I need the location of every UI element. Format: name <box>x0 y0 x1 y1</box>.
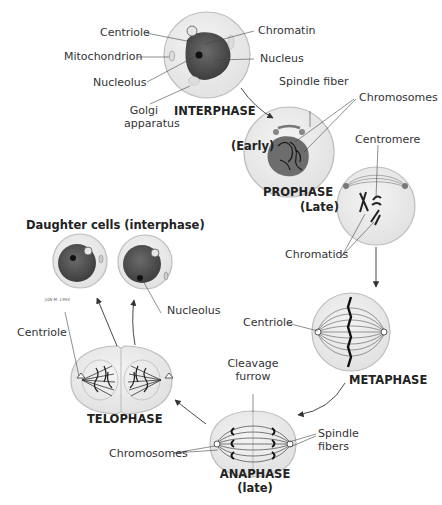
stage-telophase: TELOPHASE <box>87 412 163 426</box>
telophase-cell <box>71 346 173 414</box>
label-nucleus: Nucleus <box>260 52 304 65</box>
label-golgi-apparatus: Golgi apparatus <box>124 104 164 130</box>
stage-anaphase: ANAPHASE (late) <box>212 467 298 495</box>
label-chromatin: Chromatin <box>258 24 315 37</box>
artist-signature: JON M. 1994 <box>45 297 70 302</box>
stage-prophase-early: (Early) <box>231 139 274 153</box>
arrow-metaphase-to-anaphase <box>298 383 345 415</box>
label-nucleolus-interphase: Nucleolus <box>93 76 147 89</box>
title-daughter-cells: Daughter cells (interphase) <box>26 218 205 232</box>
nucleolus-dot <box>196 52 203 59</box>
label-nucleolus-daughter: Nucleolus <box>167 304 221 317</box>
arrow-anaphase-to-telophase <box>175 400 206 424</box>
interphase-cell <box>164 12 250 98</box>
label-centromere: Centromere <box>355 133 420 146</box>
label-centriole-interphase: Centriole <box>100 26 150 39</box>
label-cleavage-furrow: Cleavage furrow <box>226 357 280 383</box>
stage-interphase: INTERPHASE <box>174 104 256 118</box>
label-centriole-telophase: Centriole <box>17 326 67 339</box>
daughter-cell-left <box>53 234 107 288</box>
arrow-telophase-to-daughter-right <box>133 300 135 345</box>
mitosis-diagram <box>0 0 442 505</box>
label-centriole-metaphase: Centriole <box>243 316 293 329</box>
arrow-telophase-to-daughter-left <box>97 298 117 346</box>
centriole-shape <box>187 26 197 36</box>
stage-prophase-late: (Late) <box>300 200 339 214</box>
label-spindle-fiber: Spindle fiber <box>279 75 349 88</box>
label-chromatids: Chromatids <box>285 248 348 261</box>
metaphase-cell <box>312 293 390 371</box>
mitochondrion-shape <box>170 51 175 61</box>
stage-metaphase: METAPHASE <box>349 373 427 387</box>
label-spindle-fibers: Spindle fibers <box>318 427 359 453</box>
label-mitochondrion: Mitochondrion <box>64 50 143 63</box>
label-chromosomes-anaphase: Chromosomes <box>109 447 188 460</box>
prophase-late-cell <box>337 167 415 245</box>
label-chromosomes-prophase: Chromosomes <box>359 91 438 104</box>
daughter-cell-right <box>118 235 172 289</box>
stage-prophase: PROPHASE <box>263 185 333 199</box>
